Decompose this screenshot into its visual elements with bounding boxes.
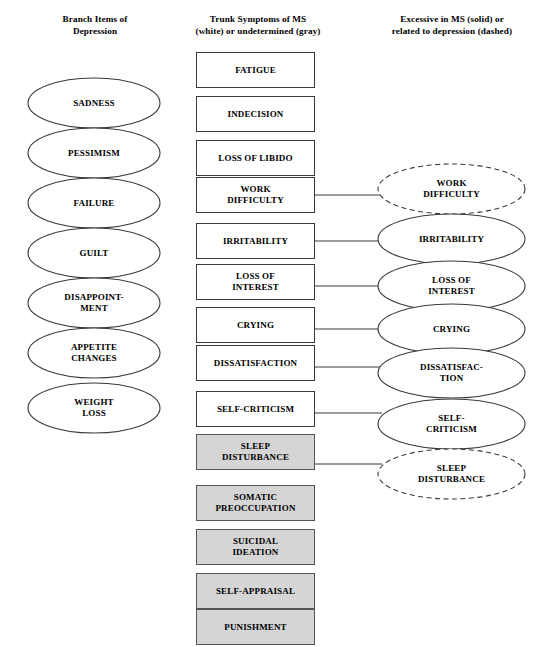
branch-item-failure: FAILURE — [27, 177, 161, 229]
node-label: FAILURE — [27, 177, 161, 229]
trunk-symptom-crying: CRYING — [196, 307, 315, 343]
node-label: DISSATISFACTION — [214, 358, 297, 369]
trunk-symptom-loss-of-interest: LOSS OF INTEREST — [196, 264, 315, 300]
excessive-item-work-difficulty: WORK DIFFICULTY — [377, 163, 526, 215]
node-label: GUILT — [27, 227, 161, 279]
node-label: WEIGHT LOSS — [27, 382, 161, 434]
node-label: SADNESS — [27, 77, 161, 129]
column-header-trunk-symptoms: Trunk Symptoms of MS (white) or undeterm… — [178, 14, 338, 37]
trunk-symptom-somatic-preoccupation: SOMATIC PREOCCUPATION — [196, 485, 315, 521]
node-label: SLEEP DISTURBANCE — [377, 448, 526, 500]
branch-item-pessimism: PESSIMISM — [27, 127, 161, 179]
trunk-symptom-indecision: INDECISION — [196, 96, 315, 132]
node-label: SELF-APPRAISAL — [216, 586, 295, 597]
branch-item-appetite-changes: APPETITE CHANGES — [27, 327, 161, 379]
node-label: SOMATIC PREOCCUPATION — [215, 492, 295, 514]
column-header-branch-items: Branch Items of Depression — [25, 14, 165, 37]
node-label: SLEEP DISTURBANCE — [222, 441, 289, 463]
node-label: WORK DIFFICULTY — [227, 184, 284, 206]
node-label: SELF- CRITICISM — [377, 398, 526, 450]
trunk-symptom-loss-of-libido: LOSS OF LIBIDO — [196, 140, 315, 176]
node-label: PUNISHMENT — [224, 622, 287, 633]
node-label: WORK DIFFICULTY — [377, 163, 526, 215]
node-label: LOSS OF INTEREST — [232, 271, 279, 293]
node-label: DISAPPOINT- MENT — [27, 277, 161, 329]
excessive-item-dissatisfac-tion: DISSATISFAC- TION — [377, 347, 526, 399]
excessive-item-self-criticism: SELF- CRITICISM — [377, 398, 526, 450]
node-label: FATIGUE — [235, 65, 276, 76]
node-label: SUICIDAL IDEATION — [232, 536, 278, 558]
node-label: APPETITE CHANGES — [27, 327, 161, 379]
node-label: INDECISION — [227, 109, 283, 120]
trunk-symptom-suicidal-ideation: SUICIDAL IDEATION — [196, 529, 315, 565]
trunk-symptom-fatigue: FATIGUE — [196, 52, 315, 88]
node-label: SELF-CRITICISM — [217, 404, 294, 415]
branch-item-guilt: GUILT — [27, 227, 161, 279]
trunk-symptom-dissatisfaction: DISSATISFACTION — [196, 345, 315, 381]
trunk-symptom-self-appraisal: SELF-APPRAISAL — [196, 573, 315, 609]
node-label: DISSATISFAC- TION — [377, 347, 526, 399]
excessive-item-sleep-disturbance: SLEEP DISTURBANCE — [377, 448, 526, 500]
trunk-symptom-irritability: IRRITABILITY — [196, 223, 315, 259]
trunk-symptom-punishment: PUNISHMENT — [196, 609, 315, 645]
diagram-root: Branch Items of Depression Trunk Symptom… — [0, 0, 540, 647]
branch-item-disappoint-ment: DISAPPOINT- MENT — [27, 277, 161, 329]
trunk-symptom-work-difficulty: WORK DIFFICULTY — [196, 177, 315, 213]
trunk-symptom-sleep-disturbance: SLEEP DISTURBANCE — [196, 434, 315, 470]
node-label: IRRITABILITY — [377, 213, 526, 265]
column-header-excessive-related: Excessive in MS (solid) or related to de… — [368, 14, 536, 37]
node-label: IRRITABILITY — [223, 236, 288, 247]
trunk-symptom-self-criticism: SELF-CRITICISM — [196, 391, 315, 427]
branch-item-sadness: SADNESS — [27, 77, 161, 129]
branch-item-weight-loss: WEIGHT LOSS — [27, 382, 161, 434]
node-label: CRYING — [237, 320, 274, 331]
node-label: LOSS OF LIBIDO — [218, 153, 292, 164]
node-label: PESSIMISM — [27, 127, 161, 179]
excessive-item-irritability: IRRITABILITY — [377, 213, 526, 265]
